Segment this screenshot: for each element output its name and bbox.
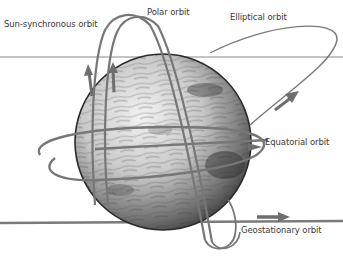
orbit-illustration — [0, 0, 343, 257]
label-equatorial-orbit: Equatorial orbit — [265, 137, 329, 147]
label-geostationary-orbit: Geostationary orbit — [241, 225, 322, 235]
label-sun-synchronous-orbit: Sun-synchronous orbit — [4, 19, 97, 29]
label-polar-orbit: Polar orbit — [147, 7, 189, 17]
label-elliptical-orbit: Elliptical orbit — [230, 12, 287, 22]
sun-synchronous-arrow-icon — [84, 64, 93, 96]
orbit-diagram: Sun-synchronous orbit Polar orbit Ellipt… — [0, 0, 343, 257]
equatorial-arrow-icon — [248, 143, 262, 151]
